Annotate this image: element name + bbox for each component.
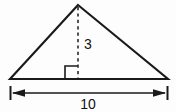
geometry-figure: 3 10 <box>0 0 176 112</box>
base-label: 10 <box>80 96 96 112</box>
arrowhead-left-icon <box>12 89 25 96</box>
arrowhead-right-icon <box>153 89 166 96</box>
right-angle-icon <box>65 66 78 78</box>
height-label: 3 <box>84 36 92 52</box>
triangle-diagram-svg: 3 10 <box>0 0 176 112</box>
